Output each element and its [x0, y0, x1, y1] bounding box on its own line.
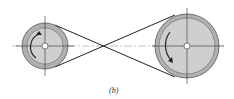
small-pulley — [16, 16, 74, 76]
figure-caption: (b) — [109, 86, 118, 95]
small-pulley-hub — [42, 43, 48, 49]
crossed-belt-drive-diagram — [0, 0, 234, 99]
large-pulley — [152, 8, 224, 84]
large-pulley-hub — [184, 43, 190, 49]
